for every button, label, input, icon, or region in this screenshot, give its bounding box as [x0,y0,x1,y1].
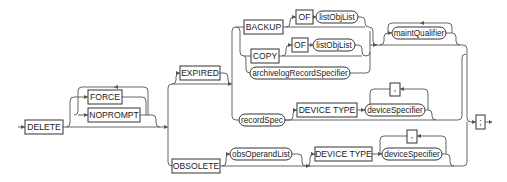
keyword-device-type-1: DEVICE TYPE [297,103,357,117]
keyword-noprompt: NOPROMPT [88,108,140,122]
keyword-expired-label: EXPIRED [181,68,219,78]
keyword-delete: DELETE [25,120,63,134]
keyword-comma-2: , [407,130,417,143]
keyword-comma-1-label: , [394,83,396,93]
nonterminal-archivelog-label: archivelogRecordSpecifier [252,69,348,78]
keyword-copy-label: COPY [253,51,278,61]
nonterminal-listobjlist-2-label: listObjList [316,41,352,50]
keyword-expired: EXPIRED [180,66,220,80]
keyword-backup-label: BACKUP [246,22,282,32]
keyword-device-type-1-label: DEVICE TYPE [299,105,356,115]
nonterminal-listobjlist-2: listObjList [313,39,355,51]
keyword-force-label: FORCE [90,92,120,102]
keyword-of-1-label: OF [299,12,311,22]
keyword-semicolon: ; [476,115,485,129]
keyword-obsolete-label: OBSOLETE [173,161,220,171]
keyword-device-type-2-label: DEVICE TYPE [315,149,372,159]
nonterminal-device-specifier-2: deviceSpecifier [382,148,442,160]
nonterminal-device-specifier-1: deviceSpecifier [365,104,425,116]
nonterminal-obs-operand-list: obsOperandList [230,148,292,160]
keyword-semicolon-label: ; [479,117,481,127]
keyword-copy: COPY [251,49,279,63]
keyword-force: FORCE [88,90,122,104]
keyword-delete-label: DELETE [27,122,61,132]
syntax-diagram: DELETE FORCE NOPROMPT EXPIRED OBSOLETE B… [0,0,507,182]
nonterminal-record-spec: recordSpec [239,114,285,126]
keyword-device-type-2: DEVICE TYPE [315,147,372,161]
keyword-noprompt-label: NOPROMPT [89,110,139,120]
keyword-comma-2-label: , [411,130,413,140]
nonterminal-listobjlist-1-label: listObjList [319,13,355,22]
keyword-of-1: OF [296,10,313,24]
nonterminal-record-spec-label: recordSpec [241,116,283,125]
nonterminal-device-specifier-1-label: deviceSpecifier [367,106,423,115]
nonterminal-obs-operand-list-label: obsOperandList [232,150,291,159]
nonterminal-maint-qualifier-label: maintQualifier [394,29,445,38]
keyword-backup: BACKUP [244,20,283,34]
keyword-of-2: OF [292,38,308,52]
nonterminal-archivelog-record-specifier: archivelogRecordSpecifier [250,67,350,79]
nonterminal-maint-qualifier: maintQualifier [392,27,446,39]
keyword-comma-1: , [390,83,400,96]
nonterminal-device-specifier-2-label: deviceSpecifier [384,150,440,159]
nonterminal-listobjlist-1: listObjList [316,11,358,23]
keyword-obsolete: OBSOLETE [172,159,220,173]
keyword-of-2-label: OF [294,40,306,50]
